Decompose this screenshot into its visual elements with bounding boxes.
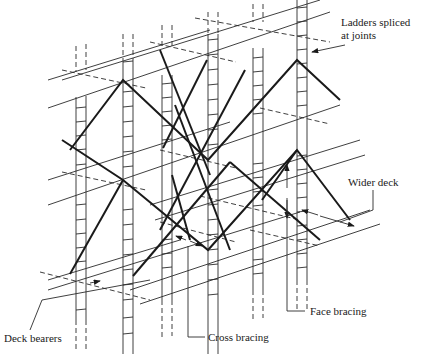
label-wider-deck: Wider deck (348, 176, 399, 189)
label-ladders-line1: Ladders spliced (341, 16, 410, 29)
ladder-e (253, 4, 263, 320)
label-ladders-line2: at joints (341, 29, 410, 42)
label-ladders-spliced: Ladders spliced at joints (341, 16, 410, 42)
ladder-a (76, 44, 86, 350)
label-deck-bearers: Deck bearers (4, 332, 62, 345)
label-cross-bracing: Cross bracing (208, 331, 269, 344)
label-face-bracing: Face bracing (310, 305, 367, 318)
deck-bearers (40, 18, 330, 300)
leader-lines (30, 45, 373, 337)
ladder-c (162, 25, 172, 340)
scaffold-diagram: Ladders spliced at joints Wider deck Fac… (0, 0, 442, 354)
